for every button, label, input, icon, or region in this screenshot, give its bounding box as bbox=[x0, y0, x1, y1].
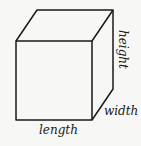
length-label: length bbox=[39, 123, 78, 137]
cube-diagram: length width height bbox=[0, 0, 141, 146]
width-label: width bbox=[104, 104, 138, 118]
height-label: height bbox=[116, 30, 130, 69]
